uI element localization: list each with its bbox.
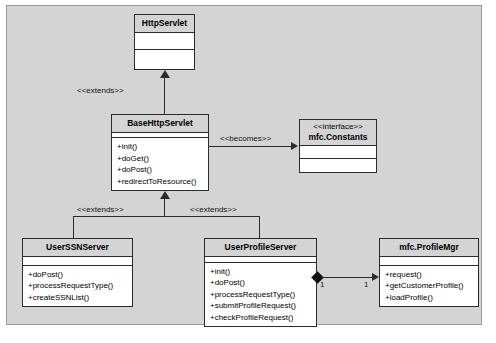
inheritance-arrowhead-httpservlet <box>160 70 170 78</box>
edge-label-extends-right: <<extends>> <box>190 205 237 214</box>
operation-item: +init() <box>117 141 208 153</box>
class-name-httpservlet: HttpServlet <box>135 15 194 33</box>
operation-item: +init() <box>210 266 316 278</box>
inheritance-stem-bottom <box>164 199 165 216</box>
class-operations-mfc-constants <box>300 159 376 172</box>
dependency-arrowhead-becomes <box>291 142 298 150</box>
operation-item: +doPost() <box>210 277 316 289</box>
class-operations-userssnserver: +doPost() +processRequestType() +createS… <box>23 266 132 307</box>
multiplicity-source: 1 <box>320 280 324 289</box>
diagram-canvas: HttpServlet <<extends>> BaseHttpServlet … <box>6 5 482 325</box>
class-name-userssnserver: UserSSNServer <box>23 239 132 257</box>
class-box-userprofileserver[interactable]: UserProfileServer +init() +doPost() +pro… <box>204 238 317 327</box>
operation-item: +checkProfileRequest() <box>210 312 316 324</box>
class-operations-httpservlet <box>135 50 194 69</box>
operation-item: +loadProfile() <box>385 292 478 304</box>
class-name-mfc-profilemgr: mfc.ProfileMgr <box>380 239 478 257</box>
class-box-basehttpservlet[interactable]: BaseHttpServlet +init() +doGet() +doPost… <box>111 114 209 191</box>
composition-arrowhead <box>372 273 379 281</box>
class-box-userssnserver[interactable]: UserSSNServer +doPost() +processRequestT… <box>22 238 133 307</box>
inheritance-arrowhead-basehttpservlet <box>160 191 170 199</box>
operation-item: +getCustomerProfile() <box>385 280 478 292</box>
operation-item: +doGet() <box>117 153 208 165</box>
class-attributes-httpservlet <box>135 33 194 51</box>
inheritance-drop-userprofileserver <box>259 216 260 238</box>
class-title-text: HttpServlet <box>142 18 187 28</box>
multiplicity-target: 1 <box>364 280 368 289</box>
stereotype-interface: <<interface>> <box>302 122 374 132</box>
edge-label-extends-left: <<extends>> <box>77 205 124 214</box>
edge-label-becomes: <<becomes>> <box>220 134 271 143</box>
class-name-mfc-constants: <<interface>> mfc.Constants <box>300 120 376 146</box>
dependency-line-becomes <box>209 146 291 147</box>
operation-item: +processRequestType() <box>28 280 132 292</box>
class-title-text: UserSSNServer <box>46 242 109 252</box>
composition-line <box>322 277 374 278</box>
class-operations-mfc-profilemgr: +request() +getCustomerProfile() +loadPr… <box>380 266 478 307</box>
class-attributes-mfc-profilemgr <box>380 257 478 266</box>
inheritance-crossbar-bottom <box>73 216 260 217</box>
inheritance-line-base-to-http <box>164 78 165 114</box>
class-operations-userprofileserver: +init() +doPost() +processRequestType() … <box>205 263 316 327</box>
operation-item: +doPost() <box>28 269 132 281</box>
inheritance-drop-userssnserver <box>73 216 74 238</box>
class-title-text: mfc.Constants <box>308 132 367 142</box>
operation-item: +submitProfileRequest() <box>210 300 316 312</box>
operation-item: +processRequestType() <box>210 289 316 301</box>
class-attributes-mfc-constants <box>300 146 376 159</box>
edge-label-extends-top: <<extends>> <box>77 86 124 95</box>
class-title-text: BaseHttpServlet <box>127 118 193 128</box>
class-box-httpservlet[interactable]: HttpServlet <box>134 14 195 70</box>
operation-item: +createSSNList() <box>28 292 132 304</box>
class-operations-basehttpservlet: +init() +doGet() +doPost() +redirectToRe… <box>112 138 208 190</box>
class-title-text: UserProfileServer <box>225 242 297 252</box>
operation-item: +request() <box>385 269 478 281</box>
class-title-text: mfc.ProfileMgr <box>399 242 459 252</box>
class-name-basehttpservlet: BaseHttpServlet <box>112 115 208 133</box>
class-name-userprofileserver: UserProfileServer <box>205 239 316 257</box>
operation-item: +redirectToResource() <box>117 176 208 188</box>
class-box-mfc-constants[interactable]: <<interface>> mfc.Constants <box>299 119 377 173</box>
operation-item: +doPost() <box>117 164 208 176</box>
class-box-mfc-profilemgr[interactable]: mfc.ProfileMgr +request() +getCustomerPr… <box>379 238 479 307</box>
class-attributes-userssnserver <box>23 257 132 266</box>
